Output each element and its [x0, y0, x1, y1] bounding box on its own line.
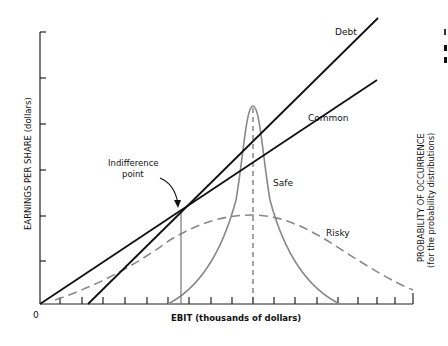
risky-label: Risky: [326, 228, 350, 238]
y2-axis-label-line1: PROBABILITY OF OCCURRENCE: [416, 133, 426, 262]
origin-label: 0: [33, 310, 39, 320]
ebit-eps-chart: Debt Common Safe Risky Indifference poin…: [0, 0, 448, 346]
indifference-label-line2: point: [122, 169, 144, 179]
indifference-label-line1: Indifference: [108, 158, 159, 168]
y2-axis-label-line2: (for the probability distributions): [426, 133, 436, 268]
edge-mark: [444, 29, 446, 35]
safe-label: Safe: [273, 178, 293, 188]
debt-label: Debt: [335, 27, 357, 37]
edge-mark: [444, 45, 447, 51]
safe-curve: [168, 106, 340, 304]
arrowhead-icon: [174, 200, 181, 208]
common-label: Common: [308, 113, 349, 123]
edge-mark: [444, 57, 447, 63]
y-axis-label: EARNINGS PER SHARE (dollars): [23, 97, 33, 230]
x-axis-label: EBIT (thousands of dollars): [171, 313, 301, 323]
